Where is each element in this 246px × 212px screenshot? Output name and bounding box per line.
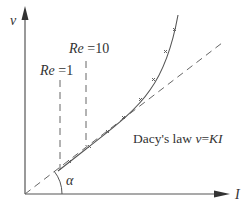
re10-label: Re =10 — [69, 42, 109, 56]
y-axis-label: v — [10, 14, 16, 28]
re1-var: Re — [40, 63, 55, 78]
x-axis-arrow-icon — [214, 191, 230, 198]
darcy-text: Dacy's law — [133, 131, 195, 146]
measured-curve — [58, 15, 178, 171]
darcy-law-label: Dacy's law v=KI — [133, 132, 223, 146]
re1-label: Re =1 — [40, 64, 73, 78]
re10-eq: =10 — [84, 41, 109, 56]
darcy-rhs: KI — [209, 131, 223, 146]
re1-eq: =1 — [55, 63, 73, 78]
diagram-canvas — [0, 0, 246, 212]
darcy-eq: = — [201, 131, 209, 146]
y-axis-arrow-icon — [22, 6, 29, 20]
x-axis-label: I — [235, 188, 240, 202]
angle-arc — [54, 171, 62, 194]
re10-var: Re — [69, 41, 84, 56]
angle-label: α — [66, 174, 73, 188]
